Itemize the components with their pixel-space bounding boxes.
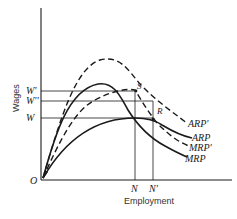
origin-label: O (30, 175, 37, 186)
curve-label-mrp: MRP (184, 153, 206, 164)
y-tick-w: W (26, 112, 36, 123)
x-tick-n-prime: N' (148, 183, 159, 194)
curve-label-mrp-prime: MRP' (188, 142, 213, 153)
curve-mrp (43, 84, 187, 178)
x-axis-label: Employment (124, 196, 175, 206)
x-tick-n: N (130, 183, 139, 194)
curve-arp-prime (43, 59, 188, 178)
point-s-label: S (137, 81, 142, 91)
wage-employment-diagram: Wages Employment O W' W'' W N N' S R ARP… (0, 0, 237, 219)
point-r-label: R (156, 106, 163, 116)
y-axis-label: Wages (11, 84, 21, 112)
point-r-marker (152, 118, 155, 121)
curve-label-arp-prime: ARP' (187, 118, 209, 129)
curve-mrp-prime (43, 89, 189, 178)
y-tick-w-double-prime: W'' (26, 95, 39, 106)
